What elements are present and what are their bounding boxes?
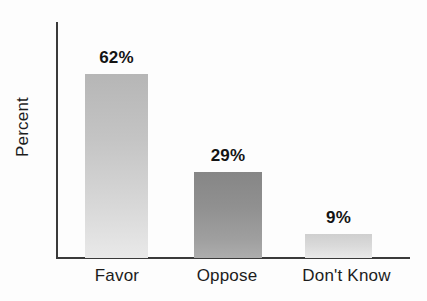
- bar-value-favor: 62%: [99, 48, 134, 68]
- bar-value-dont-know: 9%: [326, 208, 351, 228]
- x-tick-label-favor: Favor: [62, 266, 172, 286]
- x-tick-label-dont-know: Don't Know: [283, 266, 410, 286]
- x-tick-label-oppose: Oppose: [172, 266, 282, 286]
- bar-favor[interactable]: [85, 74, 148, 258]
- y-axis-title: Percent: [13, 82, 33, 172]
- bar-value-oppose: 29%: [211, 146, 246, 166]
- bar-oppose[interactable]: [194, 172, 262, 258]
- bar-chart: Percent 62% 29% 9% Favor Oppose Don't Kn…: [0, 0, 427, 301]
- bar-dont-know[interactable]: [305, 234, 372, 258]
- bar-group-dont-know[interactable]: 9%: [305, 234, 372, 258]
- plot-area: 62% 29% 9%: [58, 22, 410, 258]
- bar-group-favor[interactable]: 62%: [85, 74, 148, 258]
- bar-group-oppose[interactable]: 29%: [194, 172, 262, 258]
